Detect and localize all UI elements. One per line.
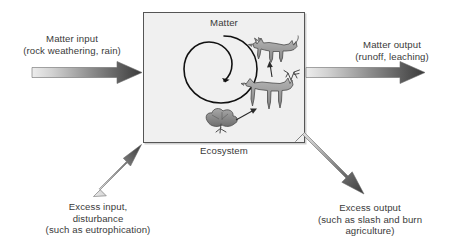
wolf-icon [249,36,299,63]
elk-icon [241,70,300,109]
ecosystem-matter-flow-diagram: Matter Ecosystem Matter input (rock weat… [0,0,455,249]
trophic-arrow-shrub-to-elk [236,109,257,121]
trophic-arrow-elk-to-wolf [267,61,273,77]
shrub-icon [206,109,237,133]
food-chain-illustrations [0,0,455,249]
